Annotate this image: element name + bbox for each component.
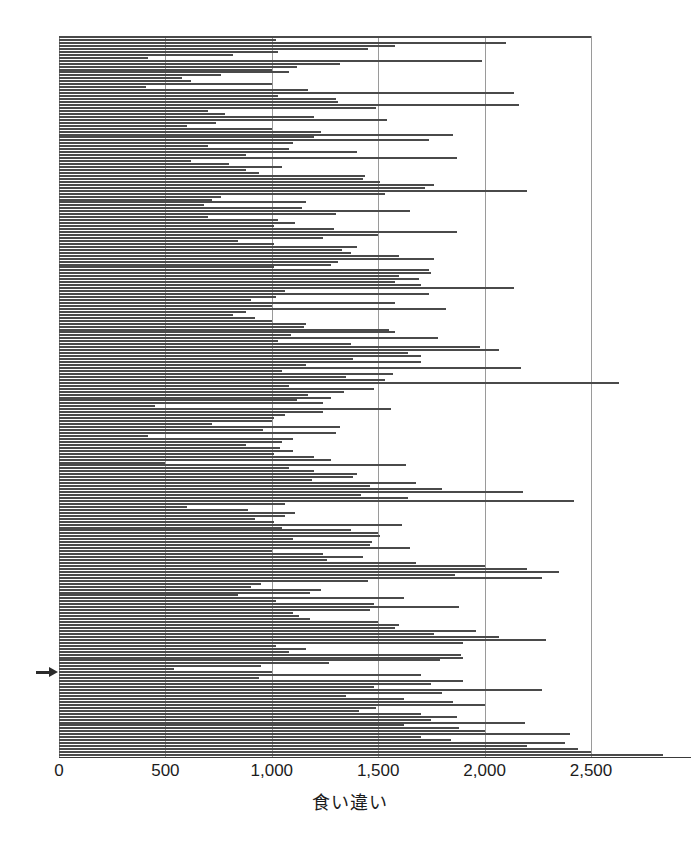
bar: [59, 624, 399, 626]
bar: [59, 269, 429, 271]
bar: [59, 683, 431, 685]
bar: [59, 296, 276, 298]
bar: [59, 379, 385, 381]
bar: [59, 172, 259, 174]
bar: [59, 258, 434, 260]
bar: [59, 456, 314, 458]
bar: [59, 45, 395, 47]
bar: [59, 668, 174, 670]
bar: [59, 397, 331, 399]
bar: [59, 423, 212, 425]
bar: [59, 317, 255, 319]
bar: [59, 157, 457, 159]
bar: [59, 225, 274, 227]
bar: [59, 278, 419, 280]
bar: [59, 411, 323, 413]
bar: [59, 122, 216, 124]
x-tick-500: 500: [151, 761, 179, 781]
gridline-1500: [378, 36, 379, 757]
bar: [59, 255, 399, 257]
bar: [59, 532, 378, 534]
bar: [59, 662, 329, 664]
bar: [59, 659, 440, 661]
bar: [59, 754, 663, 756]
bar: [59, 751, 591, 753]
bar: [59, 467, 289, 469]
chart-page: 05001,0001,5002,0002,500 食い違い: [0, 0, 700, 850]
x-axis-label-text: 食い違い: [312, 792, 388, 813]
bar: [59, 148, 289, 150]
bar: [59, 521, 274, 523]
bar: [59, 216, 208, 218]
bar: [59, 426, 340, 428]
bar: [59, 69, 272, 71]
bar: [59, 485, 370, 487]
bar: [59, 417, 274, 419]
bar: [59, 677, 259, 679]
bar: [59, 134, 453, 136]
bar: [59, 337, 438, 339]
bar: [59, 633, 434, 635]
bar: [59, 441, 282, 443]
bar: [59, 234, 378, 236]
bar: [59, 503, 285, 505]
bar: [59, 346, 480, 348]
bar: [59, 698, 404, 700]
bar: [59, 704, 485, 706]
bar: [59, 541, 372, 543]
bar: [59, 639, 546, 641]
bar: [59, 160, 191, 162]
x-tick-2000: 2,000: [463, 761, 506, 781]
row-pointer-arrow-icon: [36, 667, 58, 678]
bar: [59, 261, 338, 263]
bar: [59, 228, 334, 230]
bar: [59, 219, 278, 221]
bar: [59, 272, 431, 274]
bar: [59, 583, 261, 585]
x-axis-label: 食い違い: [0, 788, 700, 814]
bar: [59, 609, 370, 611]
bar: [59, 142, 293, 144]
bar: [59, 736, 421, 738]
bar: [59, 311, 246, 313]
bar: [59, 154, 246, 156]
plot-area: [59, 36, 691, 757]
bar: [59, 562, 416, 564]
bar: [59, 473, 357, 475]
bar: [59, 370, 282, 372]
bar: [59, 580, 368, 582]
x-tick-2500: 2,500: [570, 761, 613, 781]
bar: [59, 716, 457, 718]
bar: [59, 491, 523, 493]
bar: [59, 57, 148, 59]
bar: [59, 577, 542, 579]
bar: [59, 210, 410, 212]
x-tick-1000: 1,000: [251, 761, 294, 781]
bar: [59, 500, 574, 502]
bar: [59, 592, 310, 594]
bar: [59, 71, 289, 73]
bar: [59, 131, 321, 133]
bar: [59, 293, 429, 295]
bar: [59, 77, 182, 79]
bar: [59, 83, 272, 85]
bar: [59, 340, 278, 342]
bar: [59, 86, 146, 88]
bar: [59, 512, 295, 514]
bar: [59, 163, 229, 165]
bar: [59, 323, 306, 325]
bar: [59, 201, 306, 203]
bar: [59, 184, 434, 186]
bar: [59, 113, 225, 115]
bar: [59, 314, 233, 316]
bar: [59, 394, 308, 396]
x-tick-1500: 1,500: [357, 761, 400, 781]
bar: [59, 136, 314, 138]
bar: [59, 459, 331, 461]
bar: [59, 266, 274, 268]
bar: [59, 128, 272, 130]
bar: [59, 166, 282, 168]
bar: [59, 621, 378, 623]
bar: [59, 565, 485, 567]
bar: [59, 329, 389, 331]
